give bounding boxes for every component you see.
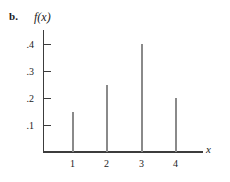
probability-mass-function-figure: b. f(x) x .4 .3 .2 .1 1 2 3 4 <box>0 0 230 182</box>
x-tick-label-3: 3 <box>135 159 149 169</box>
plot-area <box>0 0 230 182</box>
y-tick-label-0.3: .3 <box>18 67 34 77</box>
x-tick-label-2: 2 <box>100 159 114 169</box>
y-tick-label-0.1: .1 <box>18 121 34 131</box>
x-tick-label-1: 1 <box>66 159 80 169</box>
y-tick-label-0.2: .2 <box>18 94 34 104</box>
y-tick-label-0.4: .4 <box>18 40 34 50</box>
x-tick-label-4: 4 <box>169 159 183 169</box>
